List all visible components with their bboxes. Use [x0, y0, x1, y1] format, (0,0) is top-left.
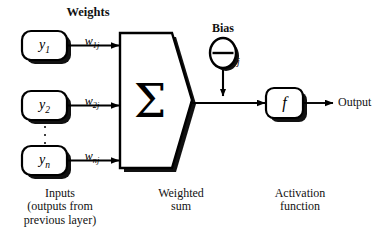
neuron-diagram: Weights y1 y2 yn w1j w2j wnj Σ Bias j f …	[0, 0, 379, 239]
weighted-sum-caption-line-1: Weighted	[158, 187, 204, 200]
activation-function-caption: Activation function	[275, 187, 326, 214]
input-node-label-1: y1	[39, 37, 50, 55]
bias-heading: Bias	[212, 22, 234, 35]
inputs-caption-line-3: previous layer)	[24, 214, 96, 227]
inputs-caption-line-2: (outputs from	[24, 200, 96, 213]
inputs-caption-line-1: Inputs	[24, 187, 96, 200]
activation-caption-line-1: Activation	[275, 187, 326, 200]
weights-heading: Weights	[66, 5, 109, 19]
activation-symbol: f	[282, 94, 286, 112]
input-node-label-n: yn	[39, 152, 50, 170]
input-node-subscript-2: 2	[45, 105, 50, 115]
weight-base-2: w	[85, 94, 93, 108]
weight-subscript-1: 1j	[93, 41, 99, 50]
input-node-label-2: y2	[39, 97, 50, 115]
weighted-sum-caption: Weighted sum	[158, 187, 204, 214]
weight-subscript-n: nj	[93, 156, 99, 165]
bias-theta-shape	[210, 38, 236, 68]
input-node-subscript-1: 1	[45, 45, 50, 55]
weighted-sum-caption-line-2: sum	[158, 200, 204, 213]
weight-label-n: wnj	[85, 149, 99, 165]
input-ellipsis-icon	[44, 126, 46, 150]
weight-subscript-2: 2j	[93, 101, 99, 110]
bias-subscript: j	[237, 56, 240, 67]
input-node-subscript-n: n	[45, 160, 50, 170]
activation-caption-line-2: function	[275, 200, 326, 213]
weight-base-1: w	[85, 34, 93, 48]
weight-label-1: w1j	[85, 34, 99, 50]
weight-label-2: w2j	[85, 94, 99, 110]
inputs-caption: Inputs (outputs from previous layer)	[24, 187, 96, 227]
output-label: Output	[338, 96, 371, 109]
summation-symbol: Σ	[134, 74, 167, 128]
weight-base-n: w	[85, 149, 93, 163]
